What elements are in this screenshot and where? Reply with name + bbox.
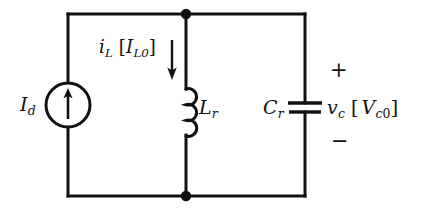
label-current-source-symbol: I xyxy=(20,93,28,115)
label-capacitor-voltage-bracket-close: ] xyxy=(391,96,399,118)
label-capacitor-symbol: C xyxy=(263,96,278,118)
label-capacitor-voltage-symbol: v xyxy=(327,96,338,118)
label-inductor-current-bracket-open: [ xyxy=(113,36,126,57)
label-inductor-current-bracket-close: ] xyxy=(149,36,156,57)
label-capacitor-voltage-bracket-open: [ xyxy=(345,96,359,118)
label-inductor-current-bracket-subscript: L0 xyxy=(133,46,148,60)
polarity-plus-sign: + xyxy=(330,60,348,81)
label-capacitor-voltage: vc[Vc0] xyxy=(327,98,398,117)
label-inductor: Lr xyxy=(199,98,218,117)
inductor-coil-path xyxy=(186,89,197,137)
junction-dot-top xyxy=(181,9,191,19)
current-source-symbol xyxy=(46,83,90,127)
label-current-source: Id xyxy=(20,95,36,114)
label-capacitor-voltage-bracket-subscript: c xyxy=(376,106,383,121)
label-inductor-symbol: L xyxy=(199,96,212,118)
label-current-source-subscript: d xyxy=(28,103,36,118)
label-capacitor-subscript: r xyxy=(278,106,284,121)
label-inductor-subscript: r xyxy=(212,106,218,121)
junction-dot-bottom xyxy=(181,191,191,201)
label-inductor-current: iL[IL0] xyxy=(99,38,156,56)
label-capacitor: Cr xyxy=(263,98,284,117)
label-capacitor-voltage-bracket-symbol: V xyxy=(359,96,376,118)
circuit-diagram-figure: Id iL[IL0] Lr Cr vc[Vc0] + − xyxy=(0,0,424,211)
capacitor-symbol xyxy=(288,103,322,112)
polarity-minus-sign: − xyxy=(331,131,349,152)
label-inductor-current-subscript: L xyxy=(105,46,113,60)
inductor-symbol xyxy=(186,89,197,137)
label-capacitor-voltage-subscript: c xyxy=(338,106,345,121)
inductor-current-arrow xyxy=(167,40,176,80)
label-capacitor-voltage-bracket-digit: 0 xyxy=(383,106,391,121)
